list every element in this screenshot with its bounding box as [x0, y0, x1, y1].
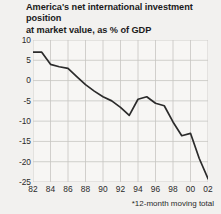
chart-card: America's net international investment p…: [0, 0, 221, 214]
x-tick-label: 84: [43, 185, 59, 193]
x-axis: 8284868890929496980002: [33, 185, 213, 197]
chart-title: America's net international investment p…: [26, 2, 216, 36]
x-tick-label: 86: [60, 185, 76, 193]
y-tick-label: 5: [3, 56, 31, 64]
y-axis: 1050-5-10-15-20-25: [0, 0, 31, 214]
x-tick-label: 92: [113, 185, 129, 193]
y-tick-label: -5: [3, 97, 31, 105]
plot-area: [33, 40, 208, 182]
chart-title-line-2: at market value, as % of GDP: [26, 25, 216, 36]
x-tick-label: 94: [130, 185, 146, 193]
x-tick-label: 82: [25, 185, 41, 193]
x-tick-label: 96: [148, 185, 164, 193]
y-tick-label: 0: [3, 76, 31, 84]
x-tick-label: 00: [183, 185, 199, 193]
line-chart-svg: [33, 40, 208, 182]
y-tick-label: -15: [3, 137, 31, 145]
y-tick-label: -20: [3, 158, 31, 166]
y-tick-label: 10: [3, 36, 31, 44]
x-tick-label: 98: [165, 185, 181, 193]
y-tick-label: -10: [3, 117, 31, 125]
x-tick-label: 02: [200, 185, 216, 193]
chart-footnote: *12-month moving total: [132, 199, 214, 208]
x-tick-label: 88: [78, 185, 94, 193]
chart-title-line-1: America's net international investment p…: [26, 2, 216, 25]
x-tick-label: 90: [95, 185, 111, 193]
